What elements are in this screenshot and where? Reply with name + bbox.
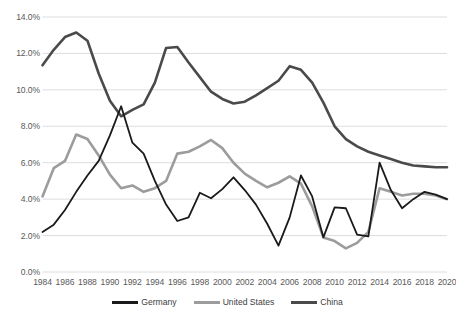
gridlines	[43, 17, 448, 272]
legend-item-germany[interactable]: Germany	[112, 298, 176, 307]
series-lines	[43, 32, 448, 248]
legend-swatch-icon	[291, 301, 317, 305]
legend-item-china[interactable]: China	[291, 298, 342, 307]
legend-swatch-icon	[112, 301, 138, 304]
legend-swatch-icon	[194, 301, 220, 305]
legend-label: United States	[223, 298, 275, 307]
series-line-china	[43, 32, 448, 167]
chart-legend: GermanyUnited StatesChina	[0, 298, 455, 307]
series-line-germany	[43, 106, 448, 245]
legend-item-united-states[interactable]: United States	[194, 298, 275, 307]
legend-label: Germany	[141, 298, 176, 307]
legend-label: China	[320, 298, 342, 307]
